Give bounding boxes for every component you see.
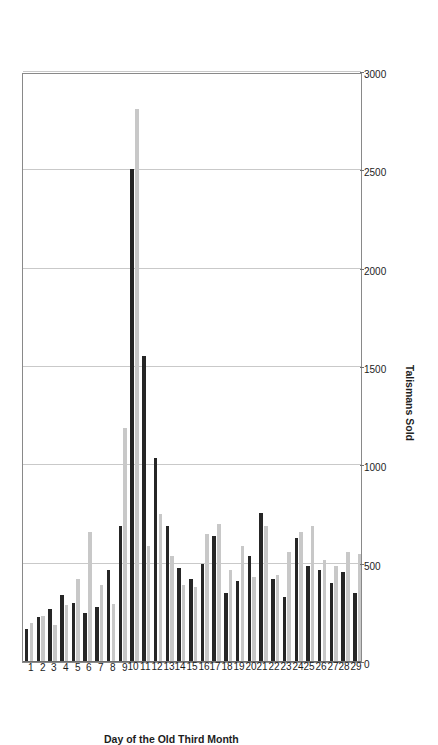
bar-band <box>175 74 187 662</box>
category-tick-label-15: 15 <box>186 662 197 673</box>
bar-band <box>199 74 211 662</box>
bar-band <box>304 74 316 662</box>
bar-band <box>351 74 363 662</box>
category-tick-label-4: 4 <box>63 662 69 673</box>
bar-1881-day-24 <box>295 538 299 662</box>
bar-1880-day-29 <box>358 554 362 662</box>
bar-band <box>222 74 234 662</box>
bar-band <box>152 74 164 662</box>
bar-1880-day-8 <box>112 604 116 662</box>
bar-1880-day-5 <box>76 579 80 662</box>
category-tick-label-8: 8 <box>110 662 116 673</box>
bar-band <box>105 74 117 662</box>
bar-1880-day-14 <box>182 585 186 662</box>
bar-1880-day-21 <box>264 526 268 662</box>
value-tick-label: 2000 <box>364 266 386 277</box>
bar-band <box>187 74 199 662</box>
category-tick-label-3: 3 <box>51 662 57 673</box>
bar-band <box>82 74 94 662</box>
bar-1881-day-25 <box>306 566 310 662</box>
bar-1880-day-27 <box>334 566 338 662</box>
bar-1880-day-22 <box>276 575 280 662</box>
category-axis-ticks: 1234567891011121314151617181920212223242… <box>22 665 362 701</box>
plot-area <box>22 73 362 663</box>
category-tick-label-20: 20 <box>245 662 256 673</box>
bar-band <box>257 74 269 662</box>
bar-1881-day-21 <box>259 513 263 662</box>
bar-1881-day-1 <box>25 629 29 662</box>
category-tick-label-29: 29 <box>351 662 362 673</box>
bar-1881-day-27 <box>330 583 334 662</box>
bar-1881-day-22 <box>271 579 275 662</box>
bar-band <box>58 74 70 662</box>
bar-band <box>269 74 281 662</box>
bar-1881-day-12 <box>154 458 158 662</box>
bar-1880-day-13 <box>170 556 174 662</box>
bar-1881-day-2 <box>37 617 41 662</box>
category-tick-label-14: 14 <box>175 662 186 673</box>
bar-1880-day-1 <box>30 623 34 662</box>
category-tick-label-24: 24 <box>292 662 303 673</box>
bar-band <box>234 74 246 662</box>
category-tick-label-18: 18 <box>222 662 233 673</box>
bar-bands <box>23 74 361 662</box>
bar-1881-day-15 <box>189 579 193 662</box>
bar-1881-day-28 <box>341 572 345 662</box>
value-tick-label: 3000 <box>364 69 386 80</box>
value-tick-label: 0 <box>364 659 370 670</box>
bar-1881-day-8 <box>107 570 111 662</box>
bar-band <box>328 74 340 662</box>
gridline <box>23 71 361 72</box>
bar-1881-day-19 <box>236 581 240 662</box>
category-tick-label-5: 5 <box>75 662 81 673</box>
value-axis-title: Talismans Sold <box>404 365 416 441</box>
bar-1881-day-29 <box>353 593 357 662</box>
bar-1880-day-12 <box>159 514 163 662</box>
bar-1880-day-2 <box>41 616 45 662</box>
category-tick-label-23: 23 <box>280 662 291 673</box>
bar-1881-day-11 <box>142 356 146 662</box>
bar-1881-day-5 <box>72 603 76 662</box>
bar-1880-day-11 <box>147 546 151 662</box>
bar-1880-day-15 <box>194 587 198 662</box>
value-tick-label: 1000 <box>364 462 386 473</box>
bar-1881-day-3 <box>48 609 52 662</box>
category-tick-label-12: 12 <box>151 662 162 673</box>
bar-band <box>117 74 129 662</box>
bar-1881-day-6 <box>83 613 87 662</box>
bar-band <box>140 74 152 662</box>
bar-1880-day-23 <box>287 552 291 662</box>
bar-1880-day-26 <box>323 560 327 662</box>
category-tick-label-2: 2 <box>40 662 46 673</box>
bar-band <box>211 74 223 662</box>
bar-1880-day-18 <box>229 570 233 662</box>
category-tick-label-6: 6 <box>86 662 92 673</box>
bar-1881-day-18 <box>224 593 228 662</box>
bar-band <box>70 74 82 662</box>
category-axis-title: Day of the Old Third Month <box>104 733 239 745</box>
category-tick-label-11: 11 <box>140 662 150 673</box>
bar-1881-day-9 <box>119 526 123 662</box>
bar-1880-day-7 <box>100 585 104 662</box>
category-tick-label-10: 10 <box>128 662 139 673</box>
bar-1880-day-20 <box>252 577 256 662</box>
bar-band <box>340 74 352 662</box>
bar-1880-day-28 <box>346 552 350 662</box>
category-tick-label-21: 21 <box>257 662 268 673</box>
value-tick-label: 2500 <box>364 167 386 178</box>
bar-band <box>281 74 293 662</box>
bar-band <box>164 74 176 662</box>
category-tick-label-19: 19 <box>233 662 244 673</box>
bar-1881-day-17 <box>212 536 216 662</box>
bar-band <box>35 74 47 662</box>
bar-1880-day-10 <box>135 109 139 662</box>
bar-1880-day-9 <box>123 428 127 662</box>
value-tick-label: 1500 <box>364 364 386 375</box>
bar-band <box>93 74 105 662</box>
category-tick-label-17: 17 <box>210 662 221 673</box>
bar-1881-day-23 <box>283 597 287 662</box>
bar-1881-day-4 <box>60 595 64 662</box>
bar-band <box>23 74 35 662</box>
